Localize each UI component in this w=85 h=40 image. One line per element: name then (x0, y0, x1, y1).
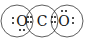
left-double-bond-electrons (27, 16, 32, 23)
co2-lewis-diagram: O C O (0, 0, 85, 40)
right-oxygen-symbol: O (58, 13, 69, 29)
carbon-symbol: C (37, 13, 48, 29)
left-oxygen-symbol: O (16, 13, 27, 29)
right-double-bond-electrons (51, 16, 56, 23)
